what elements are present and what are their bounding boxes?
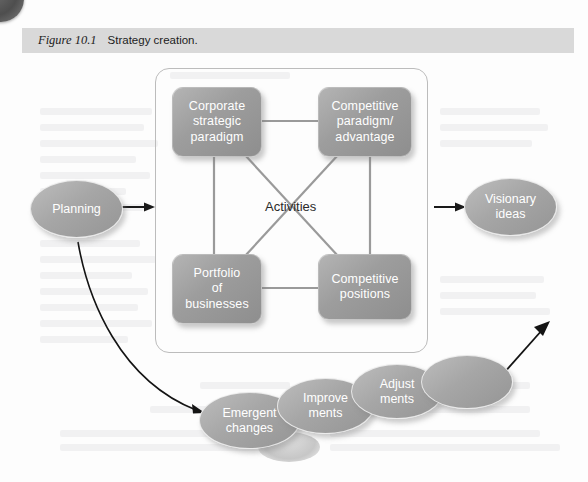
figure-caption-band: Figure 10.1Strategy creation.	[22, 28, 574, 53]
ellipse-label: Visionary ideas	[485, 192, 536, 222]
box-label: Corporate strategic paradigm	[189, 99, 246, 146]
box-label: Portfolio of businesses	[185, 266, 249, 313]
figure-page: Figure 10.1Strategy creation. Corporate …	[0, 0, 588, 482]
box-portfolio-of-businesses[interactable]: Portfolio of businesses	[172, 254, 262, 324]
ellipse-planning[interactable]: Planning	[30, 180, 123, 238]
box-label: Competitive paradigm/ advantage	[331, 99, 398, 146]
scan-artifact-corner	[0, 0, 24, 22]
figure-number: Figure 10.1	[38, 33, 97, 47]
box-competitive-positions[interactable]: Competitive positions	[318, 254, 412, 320]
ellipse-label: Improve ments	[303, 391, 348, 421]
ellipse-label: Adjust ments	[380, 377, 415, 407]
box-label: Competitive positions	[331, 272, 398, 303]
ellipse-visionary-ideas[interactable]: Visionary ideas	[464, 178, 557, 236]
ellipse-label: Planning	[52, 202, 101, 217]
ellipse-label: Emergent changes	[222, 406, 276, 436]
box-competitive-paradigm-advantage[interactable]: Competitive paradigm/ advantage	[318, 87, 412, 157]
figure-caption: Figure 10.1Strategy creation.	[38, 33, 198, 48]
ellipse-unlabelled[interactable]	[421, 355, 513, 409]
figure-title: Strategy creation.	[108, 34, 198, 46]
activities-label: Activities	[265, 199, 316, 214]
box-corporate-strategic-paradigm[interactable]: Corporate strategic paradigm	[172, 87, 262, 157]
